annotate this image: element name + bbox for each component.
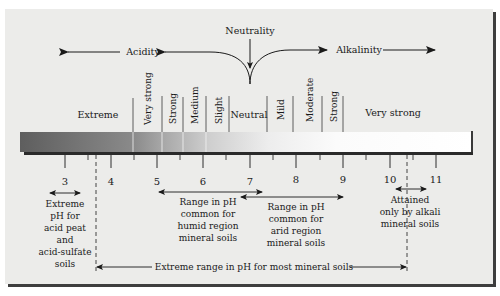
category-mild: Mild [276, 99, 286, 120]
svg-text:pH for: pH for [50, 211, 80, 221]
category-neutral: Neutral [230, 109, 267, 120]
ph-scale-diagram: Neutrality Acidity Alkalinity Extreme Ve… [0, 0, 500, 296]
svg-text:humid region: humid region [177, 221, 238, 231]
extreme-range-label: Extreme range in pH for most mineral soi… [155, 262, 354, 272]
category-medium: Medium [190, 86, 200, 124]
svg-text:acid peat: acid peat [44, 223, 86, 233]
ph-gradient-bar [20, 132, 472, 152]
category-moderate: Moderate [305, 78, 315, 122]
major-ticks [65, 155, 436, 168]
svg-text:Extreme: Extreme [46, 199, 85, 209]
tick-label-6: 6 [200, 176, 206, 187]
minor-ticks [88, 155, 413, 160]
tick-label-7: 7 [247, 176, 253, 187]
tick-label-8: 8 [293, 174, 299, 185]
tick-label-10: 10 [384, 174, 397, 185]
acidity-label: Acidity [125, 46, 160, 57]
tick-label-11: 11 [430, 174, 443, 185]
category-strong-acid: Strong [168, 93, 178, 124]
alkalinity-label: Alkalinity [335, 44, 382, 55]
svg-text:Range in pH: Range in pH [267, 202, 324, 212]
category-very-strong-alkali: Very strong [364, 107, 421, 118]
svg-text:mineral soils: mineral soils [267, 238, 326, 248]
humid-annotation: Range in pH common for humid region mine… [177, 197, 238, 243]
neutrality-label: Neutrality [225, 25, 275, 36]
tick-label-9: 9 [340, 174, 346, 185]
svg-text:Attained: Attained [390, 195, 430, 205]
arid-annotation: Range in pH common for arid region miner… [267, 202, 326, 248]
svg-text:common for: common for [269, 214, 324, 224]
tick-label-4: 4 [108, 176, 114, 187]
svg-text:Range in pH: Range in pH [179, 197, 236, 207]
svg-text:common for: common for [181, 209, 236, 219]
svg-text:mineral soils: mineral soils [179, 233, 238, 243]
tick-label-5: 5 [154, 176, 160, 187]
svg-text:soils: soils [55, 259, 76, 269]
category-slight: Slight [214, 97, 224, 124]
category-extreme: Extreme [78, 109, 119, 120]
alkalinity-curve-arrow-icon [250, 50, 327, 84]
acid-peat-annotation: Extreme pH for acid peat and acid-sulfat… [38, 199, 91, 269]
svg-text:arid region: arid region [271, 226, 322, 236]
category-very-strong-acid: Very strong [143, 72, 153, 126]
svg-text:only by alkali: only by alkali [380, 207, 441, 217]
acidity-curve-arrow-icon [165, 52, 250, 84]
svg-text:and: and [57, 235, 74, 245]
svg-text:acid-sulfate: acid-sulfate [38, 247, 91, 257]
alkali-annotation: Attained only by alkali mineral soils [380, 195, 441, 229]
scale-axis-line [24, 152, 473, 155]
category-strong-alkali: Strong [329, 91, 339, 122]
tick-label-3: 3 [62, 176, 68, 187]
svg-text:mineral soils: mineral soils [381, 219, 440, 229]
